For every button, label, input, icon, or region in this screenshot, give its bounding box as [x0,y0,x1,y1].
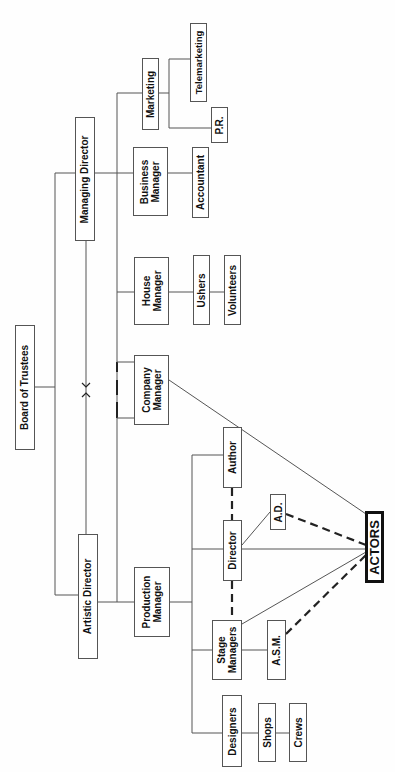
node-artistic-director: Artistic Director [78,534,98,659]
node-production-manager: Production Manager [134,567,170,637]
node-asm: A.S.M. [267,620,286,680]
connector-lines [0,0,395,772]
node-crews: Crews [289,703,307,762]
node-accountant: Accountant [192,147,209,218]
node-business-manager: Business Manager [133,147,168,216]
node-company-manager: Company Manager [134,355,169,425]
node-managing-director: Managing Director [75,117,95,241]
node-board-of-trustees: Board of Trustees [15,325,35,450]
node-telemarketing: Telemarketing [190,23,207,102]
node-marketing: Marketing [142,58,159,130]
node-actors: ACTORS [365,511,384,583]
node-pr: P.R. [211,107,228,143]
node-ushers: Ushers [193,255,210,325]
org-chart-canvas: Board of Trustees Managing Director Arti… [0,0,395,772]
node-volunteers: Volunteers [224,255,241,325]
node-director: Director [223,520,242,581]
node-author: Author [223,427,242,488]
node-assistant-director: A.D. [270,494,286,530]
node-stage-managers: Stage Managers [212,620,242,680]
node-house-manager: House Manager [134,257,169,325]
node-designers: Designers [222,695,242,767]
node-shops: Shops [258,703,276,762]
